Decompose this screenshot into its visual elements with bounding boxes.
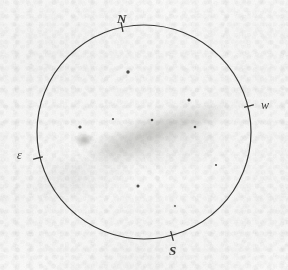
star-point xyxy=(215,164,217,166)
sketch-drawing xyxy=(0,0,288,270)
cardinal-label-west: w xyxy=(261,99,269,111)
star-point xyxy=(174,205,176,207)
cardinal-label-east: ε xyxy=(17,149,22,161)
cardinal-label-north: N xyxy=(117,12,126,25)
star-point xyxy=(112,118,114,120)
paper-noise xyxy=(0,0,288,270)
star-point xyxy=(194,126,197,129)
star-point xyxy=(137,185,140,188)
cardinal-label-south: S xyxy=(169,244,176,257)
star-point xyxy=(126,70,129,73)
observation-sketch-canvas: N w ε S xyxy=(0,0,288,270)
star-point xyxy=(78,125,81,128)
star-point xyxy=(188,99,191,102)
star-point xyxy=(151,119,154,122)
